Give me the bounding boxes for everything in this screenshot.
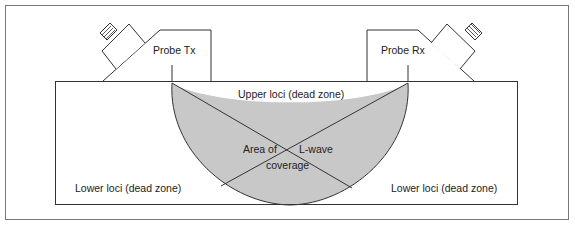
l-wave-label: L-wave [299, 144, 333, 155]
coverage-label: coverage [266, 160, 309, 171]
lower-loci-right-label: Lower loci (dead zone) [391, 183, 497, 194]
probe-tx-connector-icon [100, 23, 117, 40]
upper-loci-label: Upper loci (dead zone) [238, 89, 344, 100]
lower-loci-left-label: Lower loci (dead zone) [75, 183, 181, 194]
probe-rx-connector-icon [465, 23, 482, 40]
tofd-diagram [0, 0, 575, 229]
probe-tx-label: Probe Tx [153, 45, 195, 56]
area-of-label: Area of [243, 144, 277, 155]
probe-rx-label: Probe Rx [381, 45, 425, 56]
